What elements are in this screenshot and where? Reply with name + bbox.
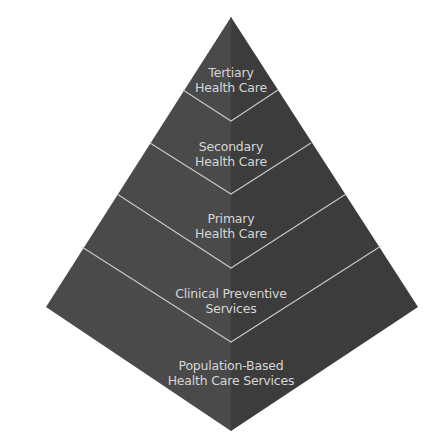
level-label-line1: Primary [208, 211, 256, 226]
health-care-pyramid: Tertiary Health Care Secondary Health Ca… [0, 0, 434, 443]
level-label-line1: Secondary [199, 139, 264, 154]
level-label-line2: Health Care Services [168, 373, 295, 388]
level-population-based: Population-Based Health Care Services [168, 358, 295, 388]
level-label-line1: Population-Based [179, 358, 284, 373]
level-label-line1: Tertiary [207, 65, 254, 80]
level-label-line2: Health Care [195, 226, 267, 241]
level-secondary: Secondary Health Care [195, 139, 267, 169]
level-label-line2: Services [205, 301, 256, 316]
level-label-line1: Clinical Preventive [175, 286, 287, 301]
level-label-line2: Health Care [195, 80, 267, 95]
level-label-line2: Health Care [195, 154, 267, 169]
